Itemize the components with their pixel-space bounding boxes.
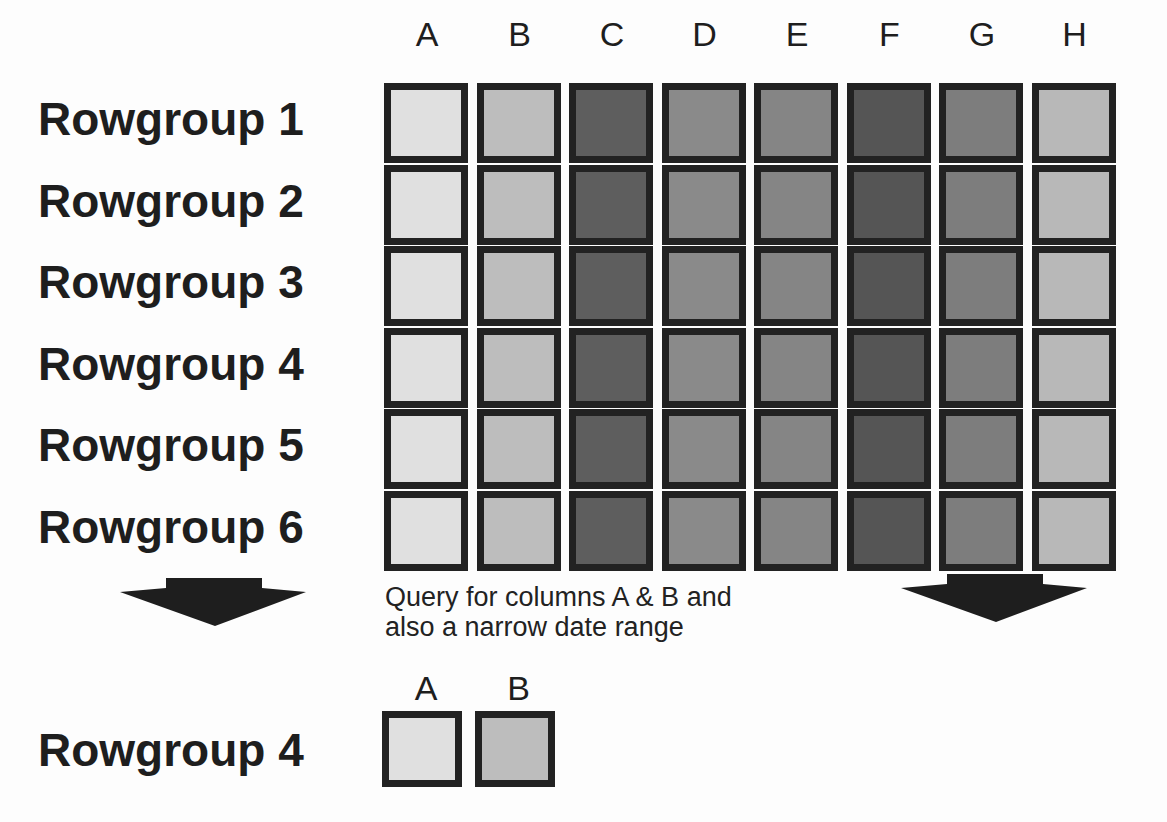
- caption-line-1: Query for columns A & B and: [385, 582, 732, 612]
- cell-g-1: [939, 83, 1023, 163]
- cell-c-2: [569, 165, 653, 245]
- cell-h-6: [1032, 491, 1116, 571]
- cell-d-4: [662, 328, 746, 408]
- cell-a-3: [384, 246, 468, 326]
- result-column-label-b: B: [476, 668, 562, 708]
- cell-c-6: [569, 491, 653, 571]
- rowgroup-label: Rowgroup 1: [38, 89, 304, 149]
- cell-b-3: [477, 246, 561, 326]
- cell-a-4: [384, 328, 468, 408]
- column-label-c: C: [569, 14, 655, 54]
- cell-h-3: [1032, 246, 1116, 326]
- column-label-b: B: [477, 14, 563, 54]
- rowgroup-label: Rowgroup 2: [38, 171, 304, 231]
- cell-f-3: [847, 246, 931, 326]
- cell-e-6: [754, 491, 838, 571]
- result-cell-b: [475, 711, 555, 787]
- cell-g-6: [939, 491, 1023, 571]
- cell-d-2: [662, 165, 746, 245]
- column-label-a: A: [384, 14, 470, 54]
- cell-e-4: [754, 328, 838, 408]
- cell-b-5: [477, 409, 561, 489]
- cell-a-2: [384, 165, 468, 245]
- cell-d-1: [662, 83, 746, 163]
- cell-b-6: [477, 491, 561, 571]
- cell-h-1: [1032, 83, 1116, 163]
- cell-e-3: [754, 246, 838, 326]
- cell-f-6: [847, 491, 931, 571]
- cell-c-3: [569, 246, 653, 326]
- caption-line-2: also a narrow date range: [385, 612, 732, 642]
- result-column-label-a: A: [383, 668, 469, 708]
- cell-c-4: [569, 328, 653, 408]
- cell-f-4: [847, 328, 931, 408]
- cell-h-5: [1032, 409, 1116, 489]
- cell-f-2: [847, 165, 931, 245]
- column-label-h: H: [1032, 14, 1118, 54]
- query-caption: Query for columns A & B and also a narro…: [385, 582, 732, 642]
- cell-h-4: [1032, 328, 1116, 408]
- cell-h-2: [1032, 165, 1116, 245]
- cell-g-3: [939, 246, 1023, 326]
- cell-b-2: [477, 165, 561, 245]
- down-arrow-left-icon: [120, 578, 306, 628]
- cell-a-6: [384, 491, 468, 571]
- cell-a-1: [384, 83, 468, 163]
- cell-d-5: [662, 409, 746, 489]
- cell-d-6: [662, 491, 746, 571]
- cell-b-4: [477, 328, 561, 408]
- cell-c-5: [569, 409, 653, 489]
- column-label-e: E: [754, 14, 840, 54]
- cell-e-5: [754, 409, 838, 489]
- cell-g-4: [939, 328, 1023, 408]
- cell-d-3: [662, 246, 746, 326]
- result-rowgroup-label: Rowgroup 4: [38, 720, 304, 780]
- rowgroup-label: Rowgroup 6: [38, 497, 304, 557]
- cell-g-5: [939, 409, 1023, 489]
- column-label-g: G: [939, 14, 1025, 54]
- cell-e-1: [754, 83, 838, 163]
- cell-a-5: [384, 409, 468, 489]
- down-arrow-right-icon: [901, 574, 1087, 624]
- cell-f-1: [847, 83, 931, 163]
- cell-e-2: [754, 165, 838, 245]
- cell-g-2: [939, 165, 1023, 245]
- rowgroup-label: Rowgroup 4: [38, 334, 304, 394]
- rowgroup-label: Rowgroup 3: [38, 252, 304, 312]
- rowgroup-label: Rowgroup 5: [38, 415, 304, 475]
- result-cell-a: [382, 711, 462, 787]
- column-label-d: D: [662, 14, 748, 54]
- cell-f-5: [847, 409, 931, 489]
- cell-b-1: [477, 83, 561, 163]
- cell-c-1: [569, 83, 653, 163]
- column-label-f: F: [847, 14, 933, 54]
